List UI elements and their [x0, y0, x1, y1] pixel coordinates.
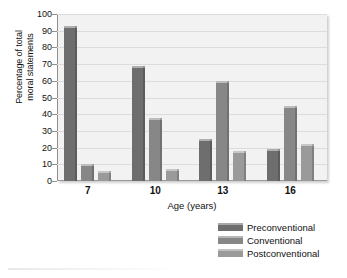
page-artifact [8, 268, 168, 270]
y-tick-label-30: 30 [30, 126, 52, 135]
x-tick-label-13: 13 [217, 185, 228, 197]
x-tick-label-7: 7 [85, 185, 91, 197]
x-tick-label-10: 10 [150, 185, 161, 197]
legend-swatch-highlight [218, 249, 243, 251]
bar-shadow [278, 149, 280, 181]
y-tick-label-60: 60 [30, 76, 52, 85]
gridline-80 [57, 47, 327, 48]
gridline-60 [57, 81, 327, 82]
gridline-50 [57, 98, 327, 99]
bar-shadow [177, 169, 179, 181]
bar-shadow [75, 26, 77, 181]
bar-shadow [295, 106, 297, 181]
y-tick-mark-0 [51, 181, 57, 182]
bar-shadow [92, 164, 94, 181]
y-tick-label-20: 20 [30, 143, 52, 152]
y-tick-mark-10 [51, 164, 57, 165]
bar-conventional-age-16 [284, 106, 297, 181]
bar-postconventional-age-16 [301, 144, 314, 181]
bar-preconventional-age-10 [132, 66, 145, 181]
y-tick-label-70: 70 [30, 60, 52, 69]
y-tick-mark-90 [51, 31, 57, 32]
legend-swatch-highlight [218, 236, 243, 238]
x-axis-tick-labels: 7101316 [57, 185, 327, 199]
plot-inner [57, 14, 327, 181]
legend-swatch-highlight [218, 223, 243, 225]
gridline-90 [57, 31, 327, 32]
legend-swatch-conventional [218, 236, 243, 244]
gridline-70 [57, 64, 327, 65]
legend-item-postconventional: Postconventional [218, 247, 347, 259]
gridline-100 [57, 14, 327, 15]
bar-preconventional-age-16 [267, 149, 280, 181]
chart-legend: PreconventionalConventionalPostconventio… [218, 221, 347, 260]
x-axis-label: Age (years) [57, 200, 327, 211]
bar-shadow [312, 144, 314, 181]
y-tick-mark-70 [51, 64, 57, 65]
y-tick-label-10: 10 [30, 160, 52, 169]
y-tick-label-40: 40 [30, 110, 52, 119]
y-tick-mark-40 [51, 114, 57, 115]
bar-shadow [160, 118, 162, 181]
bar-postconventional-age-7 [98, 171, 111, 181]
bar-preconventional-age-13 [199, 139, 212, 181]
bar-shadow [227, 81, 229, 181]
legend-swatch-postconventional [218, 249, 243, 257]
y-tick-label-100: 100 [30, 10, 52, 19]
y-tick-mark-30 [51, 131, 57, 132]
bar-shadow [143, 66, 145, 181]
legend-item-conventional: Conventional [218, 234, 347, 246]
bar-chart-figure: Percentage of total moral statements 010… [0, 0, 347, 278]
y-axis-label-line1: Percentage of total [14, 0, 25, 142]
y-tick-label-80: 80 [30, 43, 52, 52]
bar-conventional-age-7 [81, 164, 94, 181]
bar-postconventional-age-10 [166, 169, 179, 181]
legend-label: Preconventional [247, 222, 315, 233]
y-tick-mark-20 [51, 148, 57, 149]
bar-postconventional-age-13 [233, 151, 246, 181]
y-tick-mark-80 [51, 47, 57, 48]
legend-label: Conventional [247, 235, 302, 246]
bar-preconventional-age-7 [64, 26, 77, 181]
y-tick-label-0: 0 [30, 177, 52, 186]
y-tick-mark-60 [51, 81, 57, 82]
y-tick-label-50: 50 [30, 93, 52, 102]
y-tick-mark-50 [51, 98, 57, 99]
y-tick-label-90: 90 [30, 26, 52, 35]
bar-shadow [244, 151, 246, 181]
legend-item-preconventional: Preconventional [218, 221, 347, 233]
x-tick-label-16: 16 [285, 185, 296, 197]
legend-swatch-preconventional [218, 223, 243, 231]
bar-shadow [210, 139, 212, 181]
bar-shadow [109, 171, 111, 181]
bar-conventional-age-10 [149, 118, 162, 181]
bar-conventional-age-13 [216, 81, 229, 181]
legend-label: Postconventional [247, 248, 319, 259]
plot-area [57, 14, 327, 181]
y-axis-tick-labels: 0102030405060708090100 [30, 14, 52, 181]
y-tick-mark-100 [51, 14, 57, 15]
